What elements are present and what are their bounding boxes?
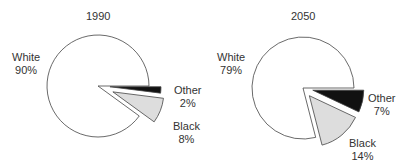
label-value: 79% (217, 64, 245, 77)
chart-title: 1990 (86, 10, 110, 22)
pie-chart-1990: 1990 White 90% Other 2% Black 8% (0, 0, 205, 165)
label-white: White 79% (217, 51, 245, 77)
label-black: Black 8% (173, 120, 200, 146)
label-name: White (12, 51, 40, 64)
label-name: Other (174, 84, 202, 97)
chart-title: 2050 (291, 10, 315, 22)
label-name: White (217, 51, 245, 64)
label-other: Other 2% (174, 84, 202, 110)
label-value: 90% (12, 64, 40, 77)
label-black: Black 14% (349, 137, 376, 163)
label-value: 14% (349, 150, 376, 163)
label-white: White 90% (12, 51, 40, 77)
slice-white (47, 35, 149, 137)
label-name: Black (173, 120, 200, 133)
label-value: 8% (173, 133, 200, 146)
pie-2050-graphic (205, 0, 410, 165)
pie-chart-2050: 2050 White 79% Other 7% Black 14% (205, 0, 410, 165)
label-name: Black (349, 137, 376, 150)
label-name: Other (368, 92, 396, 105)
label-other: Other 7% (368, 92, 396, 118)
label-value: 2% (174, 97, 202, 110)
label-value: 7% (368, 105, 396, 118)
